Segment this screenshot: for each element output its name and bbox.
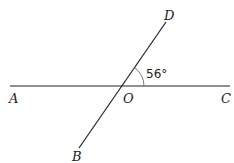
point-label-D: D xyxy=(163,8,175,23)
point-label-O: O xyxy=(123,91,134,106)
point-label-A: A xyxy=(8,91,18,106)
line-BD xyxy=(79,22,166,148)
point-label-B: B xyxy=(71,149,82,163)
angle-arc-DOC xyxy=(135,68,144,86)
angle-label: 56° xyxy=(146,67,167,81)
point-label-C: C xyxy=(221,91,231,106)
angle-diagram: 56° A O C D B xyxy=(0,0,234,163)
